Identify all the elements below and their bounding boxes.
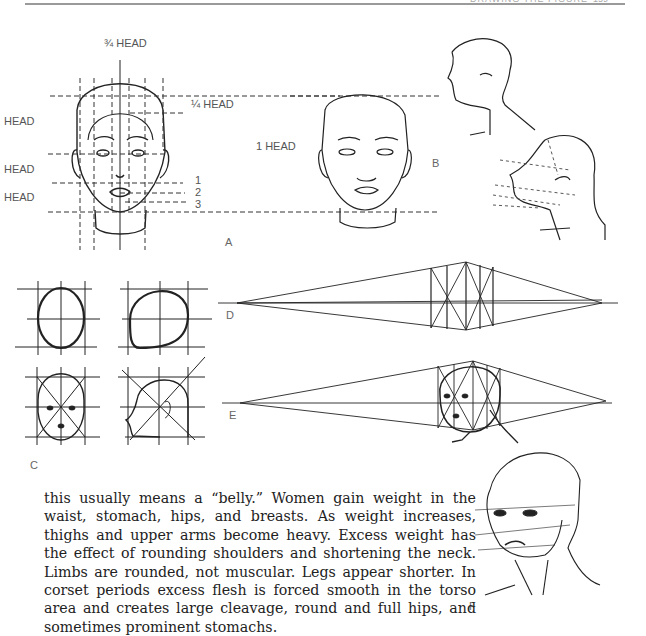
head-label-3: HEAD (4, 191, 35, 203)
figure-b-profile-guides (493, 140, 575, 208)
figure-f-three-quarter-head (475, 453, 600, 595)
figure-e-perspective-face (222, 361, 612, 443)
quarter-head-label: ¼ HEAD (191, 98, 234, 110)
figure-d-perspective (218, 262, 618, 330)
head-label-2: HEAD (4, 163, 35, 175)
three-quarter-head-label: ¾ HEAD (104, 37, 147, 49)
figure-b-profile-heads (448, 39, 605, 240)
figure-a-label: A (225, 236, 232, 248)
measure-number-2: 2 (195, 186, 201, 198)
figure-b-front-head (319, 95, 412, 228)
figure-a-front-head (72, 60, 169, 250)
measure-number-3: 3 (195, 198, 201, 210)
head-label-1: HEAD (4, 115, 35, 127)
figure-e-label: E (229, 409, 236, 421)
figure-d-label: D (226, 309, 234, 321)
figure-c-construction (15, 281, 212, 445)
figure-c-label: C (30, 459, 38, 471)
body-paragraph: this usually means a “belly.” Women gain… (44, 489, 476, 636)
figure-a-guides (48, 78, 440, 250)
figure-b-label: B (432, 157, 439, 169)
measure-number-1: 1 (195, 174, 201, 186)
one-head-label: 1 HEAD (256, 140, 296, 152)
